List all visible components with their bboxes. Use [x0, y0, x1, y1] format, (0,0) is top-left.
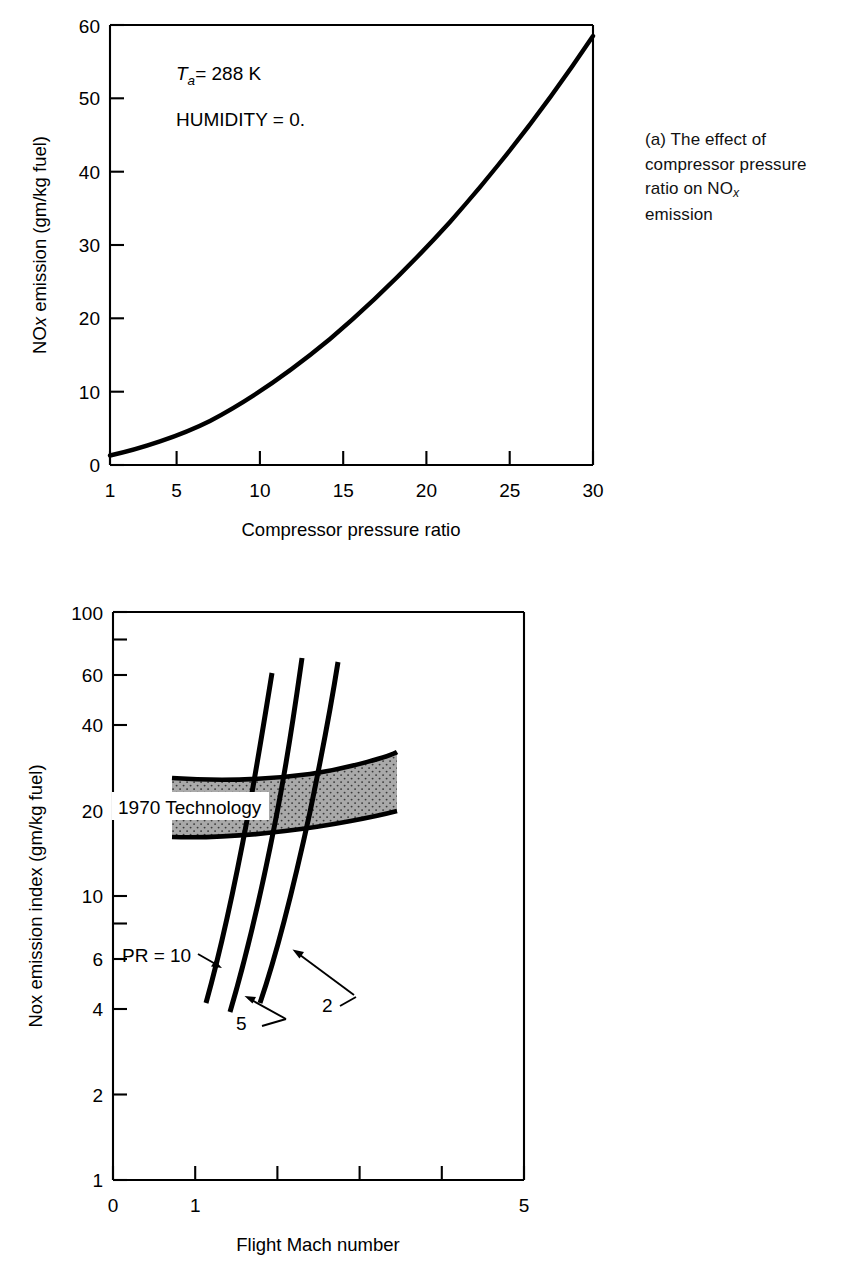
chart-b-pr-2-label: 2 [322, 995, 333, 1016]
chart-b-technology-label: 1970 Technology [118, 797, 262, 818]
chart-a-xtick-5: 5 [171, 480, 182, 501]
chart-a-series-nox-curve [110, 36, 593, 456]
chart-a-annotation-humidity: HUMIDITY = 0. [176, 109, 305, 130]
chart-a-y-ticklabels: 0 10 20 30 40 50 60 [79, 16, 100, 476]
chart-b-xtick-5: 5 [519, 1195, 530, 1216]
chart-b-ytick-100: 100 [71, 603, 103, 624]
chart-a-ytick-40: 40 [79, 162, 100, 183]
chart-b-ytick-4: 4 [92, 999, 103, 1020]
chart-a-xtick-1: 1 [105, 480, 116, 501]
chart-a-xtick-20: 20 [416, 480, 437, 501]
chart-a-y-axis-title-pre: NO [29, 326, 50, 354]
chart-b-x-ticklabels: 0 1 5 [108, 1195, 530, 1216]
figure-page: 0 10 20 30 40 50 60 1 5 [0, 0, 862, 1273]
chart-b-ytick-10: 10 [82, 886, 103, 907]
chart-a-ytick-30: 30 [79, 235, 100, 256]
chart-b-svg: 1 2 4 6 10 20 40 60 100 0 1 [0, 560, 862, 1273]
caption-a: (a) The effect of compressor pressure ra… [645, 128, 855, 228]
chart-b-pr-2-arrow-tail [340, 997, 356, 1006]
chart-a-ytick-0: 0 [89, 455, 100, 476]
chart-b-y-ticks [113, 612, 127, 1180]
chart-a-xtick-15: 15 [333, 480, 354, 501]
chart-a-ytick-60: 60 [79, 16, 100, 37]
chart-a-xtick-25: 25 [499, 480, 520, 501]
chart-a-x-ticklabels: 1 5 10 15 20 25 30 [105, 480, 604, 501]
chart-b-ytick-20: 20 [82, 801, 103, 822]
chart-a-x-ticks [110, 451, 593, 465]
chart-b-ytick-2: 2 [92, 1085, 103, 1106]
caption-a-line4: emission [645, 205, 713, 224]
chart-b-y-ticklabels: 1 2 4 6 10 20 40 60 100 [71, 603, 103, 1191]
chart-b-ytick-1: 1 [92, 1170, 103, 1191]
chart-b-x-axis-title: Flight Mach number [236, 1234, 399, 1255]
chart-b-xtick-0: 0 [108, 1195, 119, 1216]
chart-b-ytick-6: 6 [92, 949, 103, 970]
chart-a-svg: 0 10 20 30 40 50 60 1 5 [0, 0, 862, 560]
caption-a-line2: compressor pressure [645, 155, 807, 174]
chart-b-pr-5-label: 5 [236, 1013, 247, 1034]
chart-a-x-axis-title: Compressor pressure ratio [242, 519, 461, 540]
chart-panel-b: 1 2 4 6 10 20 40 60 100 0 1 [0, 560, 862, 1273]
chart-a-y-ticks [110, 25, 124, 465]
caption-a-line1: (a) The effect of [645, 130, 766, 149]
chart-a-xtick-10: 10 [249, 480, 270, 501]
chart-b-ytick-60: 60 [82, 665, 103, 686]
chart-a-y-axis-title-post: emission (gm/kg fuel) [29, 136, 50, 317]
chart-b-ytick-40: 40 [82, 715, 103, 736]
caption-a-line3-pre: ratio on NO [645, 179, 733, 198]
chart-a-ytick-20: 20 [79, 308, 100, 329]
chart-b-x-ticks [113, 1166, 524, 1180]
chart-b-xtick-1: 1 [190, 1195, 201, 1216]
chart-b-pr-2-arrow-line [296, 952, 354, 995]
chart-a-y-axis-title: NOx emission (gm/kg fuel) [29, 136, 50, 354]
chart-a-annotation-temperature: Ta= 288 K [176, 63, 261, 88]
chart-panel-a: 0 10 20 30 40 50 60 1 5 [0, 0, 862, 560]
chart-a-ytick-50: 50 [79, 88, 100, 109]
chart-b-pr-5-arrow-tail [262, 1019, 286, 1026]
chart-a-ytick-10: 10 [79, 382, 100, 403]
chart-b-pr-10-label: PR = 10 [122, 945, 191, 966]
chart-a-xtick-30: 30 [582, 480, 603, 501]
chart-b-y-axis-title: Nox emission index (gm/kg fuel) [25, 764, 46, 1027]
caption-a-line3-sub: x [733, 186, 739, 200]
